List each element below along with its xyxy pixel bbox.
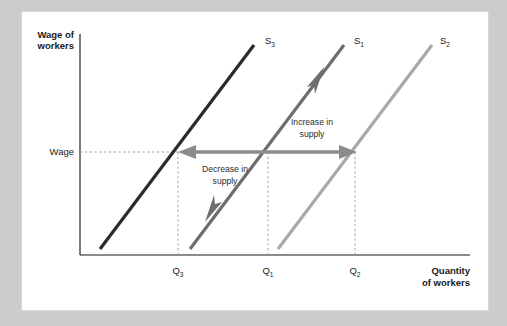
curve-label-s1: S1	[354, 35, 364, 48]
supply-diagram: Wage of workers Quantity of workers Wage…	[22, 12, 488, 310]
supply-curve-s2	[278, 45, 432, 249]
wage-tick-label: Wage	[50, 146, 74, 157]
y-axis-title-line2: workers	[37, 40, 74, 51]
annotation-decrease-in-supply-line1: Decrease in	[202, 164, 248, 174]
annotation-increase-in-supply-line1: Increase in	[291, 117, 333, 127]
x-axis-title-line1: Quantity	[431, 265, 470, 276]
x-tick-label-q1: Q1	[262, 265, 273, 278]
curve-label-s2: S2	[440, 35, 450, 48]
annotation-decrease-in-supply-line2: supply	[213, 176, 239, 186]
figure-card: Wage of workers Quantity of workers Wage…	[22, 12, 488, 310]
x-axis-title-line2: of workers	[422, 277, 470, 288]
x-tick-label-q3: Q3	[172, 265, 183, 278]
y-axis-title-line1: Wage of	[37, 29, 74, 40]
curve-label-s3: S3	[265, 35, 275, 48]
annotation-increase-in-supply-line2: supply	[300, 129, 326, 139]
x-tick-label-q2: Q2	[349, 265, 360, 278]
supply-curve-s3	[100, 45, 254, 249]
